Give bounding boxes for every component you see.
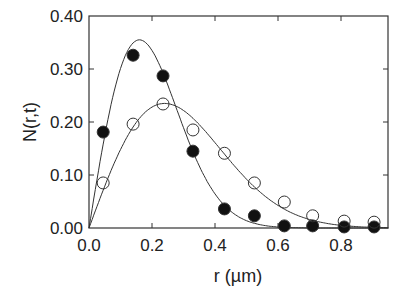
y-axis: 0.000.100.200.300.40 [50, 7, 388, 238]
open-data-point [278, 196, 290, 208]
filled-data-point [127, 49, 139, 61]
y-tick-label: 0.30 [50, 60, 83, 79]
x-axis: 0.00.20.40.60.8 [77, 16, 353, 255]
y-tick-label: 0.40 [50, 7, 83, 26]
x-tick-label: 0.4 [203, 236, 227, 255]
filled-data-point [248, 210, 260, 222]
filled-data-point [187, 145, 199, 157]
y-tick-label: 0.20 [50, 113, 83, 132]
y-tick-label: 0.10 [50, 166, 83, 185]
x-tick-label: 0.0 [77, 236, 101, 255]
fit-curve [89, 40, 388, 228]
filled-data-point [218, 203, 230, 215]
fit-curves [89, 40, 388, 228]
x-tick-label: 0.8 [329, 236, 353, 255]
open-data-point [97, 177, 109, 189]
data-points [97, 49, 380, 233]
chart: 0.000.100.200.300.40 0.00.20.40.60.8 N(r… [0, 0, 400, 293]
x-axis-label: r (µm) [214, 266, 262, 286]
filled-data-point [97, 126, 109, 138]
filled-data-point [278, 220, 290, 232]
plot-frame [89, 16, 388, 228]
open-data-point [187, 124, 199, 136]
y-axis-label: N(r,t) [20, 102, 40, 142]
x-tick-label: 0.6 [266, 236, 290, 255]
open-data-point [127, 118, 139, 130]
x-tick-label: 0.2 [140, 236, 164, 255]
fit-curve [89, 103, 388, 228]
filled-data-point [157, 70, 169, 82]
